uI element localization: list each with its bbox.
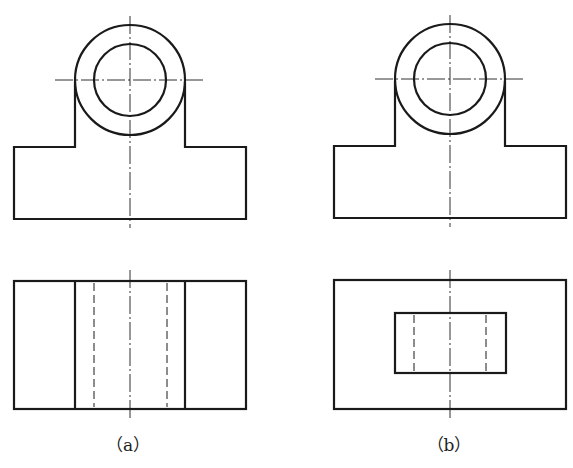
view-a-label: （a） xyxy=(106,431,150,456)
view-b-top-inner-rect xyxy=(395,313,506,373)
view-b-label: （b） xyxy=(427,431,472,456)
drawing-canvas xyxy=(0,0,573,468)
view-b-top xyxy=(334,270,566,418)
view-a-top xyxy=(14,270,246,420)
view-b-front xyxy=(334,15,566,227)
view-a-front xyxy=(14,16,246,228)
